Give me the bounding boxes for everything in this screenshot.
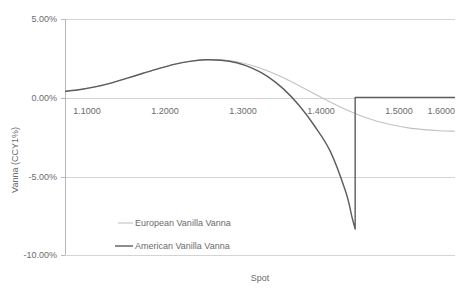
vanna-chart: 5.00% 0.00% -5.00% -10.00% 1.1000 1.2000… [0,0,473,294]
gridlines [65,19,455,255]
legend-label-european: European Vanilla Vanna [135,218,231,228]
y-axis-title: Vanna (CCY1%) [10,127,20,193]
y-tick-label-2: -5.00% [28,172,57,182]
x-tick-label-5: 1.6000 [427,106,455,116]
x-tick-label-0: 1.1000 [73,106,101,116]
legend: European Vanilla Vanna American Vanilla … [115,218,231,251]
y-tick-label-0: 5.00% [31,14,57,24]
legend-label-american: American Vanilla Vanna [135,241,230,251]
chart-canvas: 5.00% 0.00% -5.00% -10.00% 1.1000 1.2000… [0,0,473,294]
y-tick-label-1: 0.00% [31,93,57,103]
x-axis-title: Spot [251,273,270,283]
series-line-american [65,60,455,229]
x-tick-labels: 1.1000 1.2000 1.3000 1.4000 1.5000 1.600… [73,106,455,116]
y-axis [61,19,65,255]
y-tick-labels: 5.00% 0.00% -5.00% -10.00% [23,14,57,260]
x-tick-label-2: 1.3000 [229,106,257,116]
y-tick-label-3: -10.00% [23,250,57,260]
x-tick-label-4: 1.5000 [385,106,413,116]
x-tick-label-3: 1.4000 [307,106,335,116]
series-group [65,60,455,229]
series-line-european [65,60,455,132]
x-tick-label-1: 1.2000 [151,106,179,116]
